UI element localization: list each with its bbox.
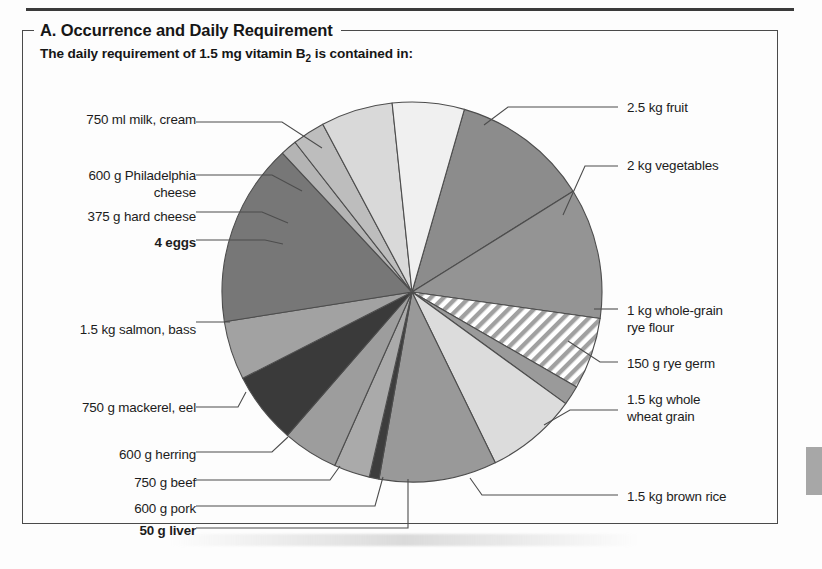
scan-artifact [170,534,640,546]
pie-slice-label: 600 g Philadelphia cheese [62,168,196,201]
pie-slice-label: 750 ml milk, cream [62,112,196,129]
pie-slice-label: 600 g herring [62,447,196,464]
leader-line [196,392,246,407]
panel-subtitle: The daily requirement of 1.5 mg vitamin … [40,46,413,64]
leader-line [470,478,618,495]
leader-line [196,437,288,452]
pie-slice-label: 1 kg whole-grain rye flour [627,303,723,336]
pie-slice-label: 750 g mackerel, eel [62,400,196,417]
page-marker-tab [806,447,822,495]
pie-slice-label: 1.5 kg whole wheat grain [627,392,700,425]
subtitle-suffix: is contained in: [311,46,413,61]
page-title: A. Occurrence and Daily Requirement [40,21,333,40]
pie-slice-label: 4 eggs [62,235,196,252]
pie-slice-label: 2 kg vegetables [627,158,719,175]
leader-line [196,477,383,506]
pie-slice-label: 150 g rye germ [627,356,715,373]
page-canvas: A. Occurrence and Daily Requirement The … [0,0,822,569]
leader-line [484,107,618,125]
leader-line [196,466,340,480]
pie-slice-label: 750 g beef [62,475,196,492]
pie-slice-label: 1.5 kg brown rice [627,489,726,506]
pie-slice-label: 1.5 kg salmon, bass [62,322,196,339]
pie-slice-label: 600 g pork [62,501,196,518]
pie-slice-label: 375 g hard cheese [62,209,196,226]
pie-slice-label: 2.5 kg fruit [627,100,688,117]
subtitle-prefix: The daily requirement of 1.5 mg vitamin … [40,46,306,61]
